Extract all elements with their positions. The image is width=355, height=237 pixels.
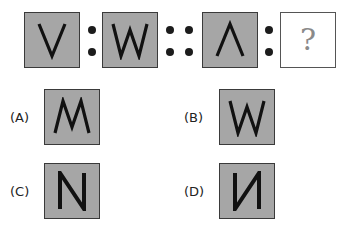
letter-w-icon	[227, 97, 267, 137]
option-b-tile[interactable]	[219, 89, 275, 145]
letter-w-icon	[110, 20, 150, 60]
ratio-separator	[265, 26, 273, 56]
letter-inverted-v-icon	[210, 20, 250, 60]
question-mark: ?	[300, 25, 316, 55]
ratio-separator	[185, 26, 193, 56]
letter-m-icon	[52, 97, 92, 137]
ratio-separator	[88, 26, 96, 56]
option-b-label: (B)	[184, 110, 203, 125]
question-tile-inverted-v	[202, 12, 258, 68]
letter-n-icon	[52, 171, 92, 211]
option-a-label: (A)	[10, 110, 29, 125]
letter-v-icon	[32, 20, 72, 60]
question-tile-w	[102, 12, 158, 68]
option-d-tile[interactable]	[219, 163, 275, 219]
option-d-label: (D)	[184, 184, 204, 199]
ratio-separator	[166, 26, 174, 56]
question-tile-v	[24, 12, 80, 68]
option-c-label: (C)	[10, 184, 29, 199]
option-a-tile[interactable]	[44, 89, 100, 145]
letter-mirrored-n-icon	[227, 171, 267, 211]
option-c-tile[interactable]	[44, 163, 100, 219]
question-tile-unknown: ?	[280, 12, 336, 68]
